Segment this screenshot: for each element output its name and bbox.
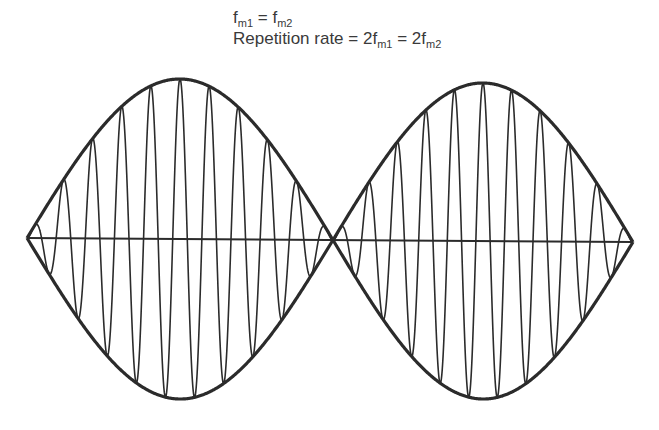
envelope-upper-lobe-2 [333,83,633,242]
envelope-upper-lobe-1 [27,79,333,240]
modulated-waveform-plot [0,0,659,430]
